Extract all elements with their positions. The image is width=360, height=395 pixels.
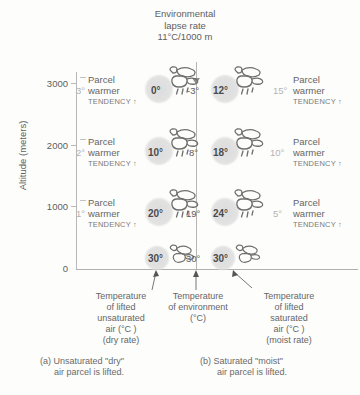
right-warmer-word-3000: warmer	[293, 85, 355, 96]
lapse-rate-diagram: Environmental lapse rate 11°C/1000 m Alt…	[0, 0, 360, 395]
caption-right-line-5: (moist rate)	[246, 335, 332, 346]
parcel-value-dry-3000: 0°	[151, 85, 161, 96]
environment-value-1000: 19°	[186, 208, 200, 219]
left-parcel-text-1000: Parcel warmer TENDENCY ↑	[88, 197, 148, 230]
y-tick-1000: 1000	[28, 201, 68, 212]
cloud-icon-moist-3000	[229, 66, 273, 98]
caption-center-line-3: (°C)	[152, 313, 244, 324]
bracket-2000	[80, 139, 86, 140]
parcel-value-moist-2000: 18°	[213, 147, 228, 158]
caption-left-line-5: (dry rate)	[78, 335, 164, 346]
bracket-1000	[80, 200, 86, 201]
right-parcel-word-2000: Parcel	[293, 136, 355, 147]
right-delta-1000: 5°	[273, 208, 282, 219]
y-axis-line	[76, 72, 77, 269]
caption-left-line-4: air (°C )	[78, 324, 164, 335]
header-line-2: lapse rate	[120, 20, 250, 32]
figure-caption-b: (b) Saturated "moist" air parcel is lift…	[200, 356, 345, 378]
cloud-icon-moist-2000	[229, 128, 273, 160]
left-parcel-word-2000: Parcel	[88, 136, 148, 147]
y-tickmark-2000	[71, 145, 76, 146]
right-warmer-word-1000: warmer	[293, 208, 355, 219]
left-tendency-3000: TENDENCY ↑	[88, 96, 148, 107]
parcel-value-moist-3000: 12°	[213, 85, 228, 96]
right-parcel-text-1000: Parcel warmer TENDENCY ↑	[293, 197, 355, 230]
header-environmental-lapse-rate: Environmental lapse rate 11°C/1000 m	[120, 8, 250, 43]
caption-right-line-1: Temperature	[246, 291, 332, 302]
right-tendency-3000: TENDENCY ↑	[293, 96, 355, 107]
figure-caption-b-line-1: (b) Saturated "moist"	[200, 356, 345, 367]
cloud-icon-dry-3000	[164, 66, 208, 98]
caption-right-line-3: saturated	[246, 313, 332, 324]
y-tick-3000: 3000	[28, 78, 68, 89]
caption-center-line-1: Temperature	[152, 291, 244, 302]
cloud-icon-dry-2000	[164, 128, 208, 160]
y-tickmark-1000	[71, 206, 76, 207]
left-tendency-1000: TENDENCY ↑	[88, 219, 148, 230]
y-axis-label: Altitude (meters)	[17, 96, 28, 216]
figure-caption-a-line-1: (a) Unsaturated "dry"	[40, 356, 180, 367]
right-parcel-text-2000: Parcel warmer TENDENCY ↑	[293, 136, 355, 169]
caption-pointer-arrows	[100, 268, 280, 292]
environment-value-2000: 8°	[189, 147, 198, 158]
right-tendency-2000: TENDENCY ↑	[293, 158, 355, 169]
caption-center-line-2: of environment	[152, 302, 244, 313]
figure-caption-a-line-2: air parcel is lifted.	[40, 367, 180, 378]
right-delta-3000: 15°	[273, 85, 287, 96]
left-tendency-2000: TENDENCY ↑	[88, 158, 148, 169]
right-parcel-word-3000: Parcel	[293, 74, 355, 85]
caption-center-environment: Temperature of environment (°C)	[152, 291, 244, 324]
left-parcel-word-3000: Parcel	[88, 74, 148, 85]
left-parcel-text-3000: Parcel warmer TENDENCY ↑	[88, 74, 148, 107]
y-tickmark-3000	[71, 83, 76, 84]
left-warmer-word-2000: warmer	[88, 147, 148, 158]
header-line-3: 11°C/1000 m	[120, 31, 250, 43]
y-tick-0: 0	[28, 263, 68, 274]
figure-caption-b-line-2: air parcel is lifted.	[200, 367, 345, 378]
environment-value-0: 30°	[186, 253, 200, 264]
caption-right-moist: Temperature of lifted saturated air (°C …	[246, 291, 332, 346]
parcel-value-dry-0: 30°	[148, 253, 163, 264]
left-parcel-text-2000: Parcel warmer TENDENCY ↑	[88, 136, 148, 169]
caption-right-line-2: of lifted	[246, 302, 332, 313]
right-parcel-word-1000: Parcel	[293, 197, 355, 208]
environment-value-3000: -3°	[187, 85, 199, 96]
cloud-icon-moist-0	[232, 243, 266, 269]
right-parcel-text-3000: Parcel warmer TENDENCY ↑	[293, 74, 355, 107]
caption-right-line-4: air (°C )	[246, 324, 332, 335]
left-delta-3000: 3°	[76, 85, 85, 96]
parcel-value-dry-1000: 20°	[148, 208, 163, 219]
figure-caption-a: (a) Unsaturated "dry" air parcel is lift…	[40, 356, 180, 378]
parcel-value-moist-0: 30°	[213, 253, 228, 264]
right-tendency-1000: TENDENCY ↑	[293, 219, 355, 230]
left-warmer-word-3000: warmer	[88, 85, 148, 96]
left-parcel-word-1000: Parcel	[88, 197, 148, 208]
right-delta-2000: 10°	[270, 147, 284, 158]
left-delta-1000: 1°	[76, 208, 85, 219]
parcel-value-dry-2000: 10°	[148, 147, 163, 158]
parcel-value-moist-1000: 24°	[213, 208, 228, 219]
left-delta-2000: 2°	[76, 147, 85, 158]
left-warmer-word-1000: warmer	[88, 208, 148, 219]
bracket-3000	[80, 77, 86, 78]
cloud-icon-moist-1000	[229, 189, 273, 221]
right-warmer-word-2000: warmer	[293, 147, 355, 158]
y-tick-2000: 2000	[28, 140, 68, 151]
header-line-1: Environmental	[120, 8, 250, 20]
